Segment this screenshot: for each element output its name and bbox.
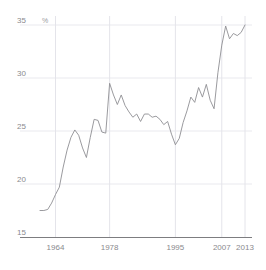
x-axis-tick-label: 1995 bbox=[158, 243, 192, 252]
chart-figure: % 3530252015 19641978199520072013 bbox=[0, 0, 266, 270]
x-axis-tick-label: 2013 bbox=[228, 243, 262, 252]
x-axis-tick-label: 1978 bbox=[93, 243, 127, 252]
y-axis-tick-label: 20 bbox=[17, 175, 26, 184]
x-axis-tick-label: 1964 bbox=[38, 243, 72, 252]
y-axis-tick-label: 25 bbox=[17, 122, 26, 131]
y-axis-tick-label: 30 bbox=[17, 69, 26, 78]
y-axis-tick-label: 35 bbox=[17, 16, 26, 25]
gridlines bbox=[20, 16, 252, 237]
y-axis-tick-label: 15 bbox=[17, 228, 26, 237]
data-series-layer bbox=[40, 25, 245, 211]
data-series-line bbox=[40, 25, 245, 211]
line-chart-plot bbox=[0, 0, 266, 270]
